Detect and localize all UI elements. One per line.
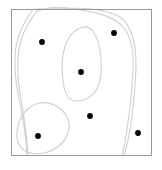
diagram-canvas: [0, 0, 162, 170]
figure-background: [0, 0, 162, 170]
point-1: [39, 39, 45, 45]
point-6: [135, 130, 141, 136]
figure-container: [0, 0, 162, 170]
point-2: [111, 30, 117, 36]
point-5: [35, 133, 41, 139]
point-4: [87, 113, 93, 119]
point-3: [78, 69, 84, 75]
